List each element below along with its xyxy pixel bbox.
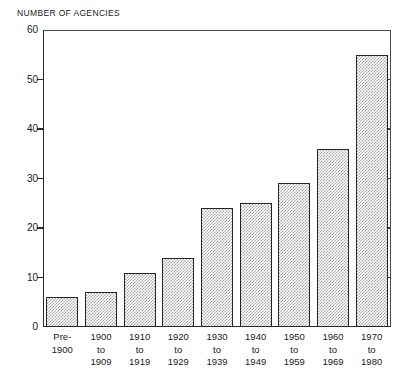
bar[interactable] — [124, 273, 156, 327]
bar[interactable] — [317, 149, 349, 327]
x-axis-labels: Pre-19001900to19091910to19191920to192919… — [43, 331, 391, 379]
chart-title: NUMBER OF AGENCIES — [17, 8, 120, 18]
bar-slot — [314, 30, 353, 327]
bar-slot — [275, 30, 314, 327]
bar-slot — [82, 30, 121, 327]
y-axis-tick-label: 20 — [14, 222, 38, 233]
x-axis-label-line: 1970 — [349, 331, 395, 344]
bar[interactable] — [85, 292, 117, 327]
x-axis-label-line: to — [349, 344, 395, 357]
x-axis-label: 1970to1980 — [349, 331, 395, 369]
bar-slot — [198, 30, 237, 327]
bar-slot — [120, 30, 159, 327]
bar[interactable] — [240, 203, 272, 327]
y-axis-tick-label: 0 — [14, 321, 38, 332]
bar[interactable] — [46, 297, 78, 327]
bar-slot — [43, 30, 82, 327]
bars-container — [43, 30, 391, 327]
bar[interactable] — [201, 208, 233, 327]
y-axis-tick-label: 30 — [14, 173, 38, 184]
bar[interactable] — [356, 55, 388, 327]
bar[interactable] — [278, 183, 310, 327]
bar-slot — [159, 30, 198, 327]
y-axis-tick-label: 10 — [14, 272, 38, 283]
bar-slot — [236, 30, 275, 327]
bar-slot — [352, 30, 391, 327]
y-axis-tick-label: 60 — [14, 24, 38, 35]
y-axis-tick-label: 50 — [14, 74, 38, 85]
y-axis-tick-label: 40 — [14, 123, 38, 134]
bar-chart: NUMBER OF AGENCIES 0102030405060 Pre-190… — [0, 0, 412, 379]
x-axis-label-line: 1980 — [349, 356, 395, 369]
bar[interactable] — [162, 258, 194, 327]
